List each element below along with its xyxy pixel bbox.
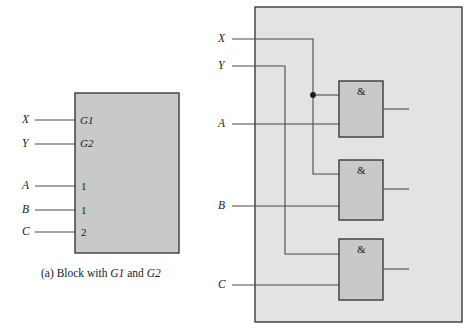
- gate-input-label-b: B: [218, 200, 225, 212]
- caption-mid: and: [124, 267, 146, 279]
- caption-prefix: (a) Block with: [41, 267, 110, 279]
- gate-input-label-a: A: [218, 118, 225, 130]
- block-input-wires: [35, 120, 75, 232]
- junction-dot-x: [310, 92, 316, 98]
- block-pin-label-g2: G2: [80, 138, 93, 149]
- gate-diagram: [232, 7, 462, 322]
- figure-caption-a: (a) Block with G1 and G2: [41, 268, 161, 280]
- block-input-label-b: B: [22, 204, 29, 216]
- block-pin-label-g1: G1: [80, 115, 93, 126]
- block-pin-label-c: 2: [81, 227, 87, 238]
- block-diagram: [35, 93, 179, 253]
- and-gate-1-symbol: &: [357, 86, 366, 97]
- block-input-label-a: A: [22, 180, 29, 192]
- gate-input-label-y: Y: [218, 60, 224, 72]
- block-pin-label-b: 1: [81, 205, 87, 216]
- block-input-label-c: C: [22, 226, 30, 238]
- caption-g1: G1: [110, 267, 124, 279]
- block-input-label-x: X: [22, 114, 29, 126]
- caption-g2: G2: [147, 267, 161, 279]
- and-gate-3-symbol: &: [357, 244, 366, 255]
- gate-input-label-x: X: [218, 33, 225, 45]
- block-input-label-y: Y: [22, 138, 28, 150]
- logic-diagram-figure: [0, 0, 474, 332]
- gate-input-label-c: C: [218, 279, 226, 291]
- block-pin-label-a: 1: [81, 181, 87, 192]
- and-gate-2-symbol: &: [357, 165, 366, 176]
